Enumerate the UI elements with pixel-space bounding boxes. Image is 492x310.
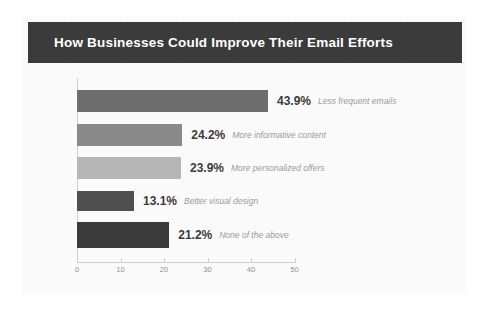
x-tick-label: 20 — [160, 265, 168, 274]
bar-value-label: 13.1% — [143, 194, 177, 208]
x-axis-line — [77, 262, 296, 263]
bar-category-label: None of the above — [219, 230, 288, 240]
x-tick-label: 10 — [116, 265, 124, 274]
chart-title: How Businesses Could Improve Their Email… — [54, 35, 393, 50]
bar — [77, 157, 181, 179]
bar-row: 24.2%More informative content — [77, 124, 302, 146]
bar-category-label: More informative content — [232, 130, 326, 140]
x-tick-mark — [208, 258, 209, 263]
x-tick-mark — [251, 258, 252, 263]
x-tick-mark — [121, 258, 122, 263]
bar — [77, 90, 268, 112]
bar — [77, 191, 134, 211]
bar-value-label: 43.9% — [277, 94, 311, 108]
bar-value-label: 23.9% — [190, 161, 224, 175]
x-tick-mark — [164, 258, 165, 263]
x-tick-label: 0 — [75, 265, 79, 274]
x-tick-label: 30 — [203, 265, 211, 274]
x-tick-label: 50 — [290, 265, 298, 274]
bar-row: 43.9%Less frequent emails — [77, 90, 388, 112]
bar — [77, 222, 169, 248]
x-tick-mark — [295, 258, 296, 263]
chart-screenshot: How Businesses Could Improve Their Email… — [0, 0, 492, 310]
bar-row: 13.1%Better visual design — [77, 191, 254, 211]
bar-value-label: 24.2% — [191, 128, 225, 142]
bar-value-label: 21.2% — [178, 228, 212, 242]
bar-row: 21.2%None of the above — [77, 222, 289, 248]
chart-title-bar: How Businesses Could Improve Their Email… — [28, 22, 462, 63]
bar-row: 23.9%More personalized offers — [77, 157, 301, 179]
bar-category-label: More personalized offers — [231, 163, 325, 173]
bar — [77, 124, 182, 146]
x-tick-mark — [77, 258, 78, 263]
bar-category-label: Better visual design — [184, 196, 258, 206]
bar-category-label: Less frequent emails — [318, 96, 396, 106]
x-tick-label: 40 — [247, 265, 255, 274]
plot-area: 01020304050 43.9%Less frequent emails24.… — [28, 66, 462, 292]
